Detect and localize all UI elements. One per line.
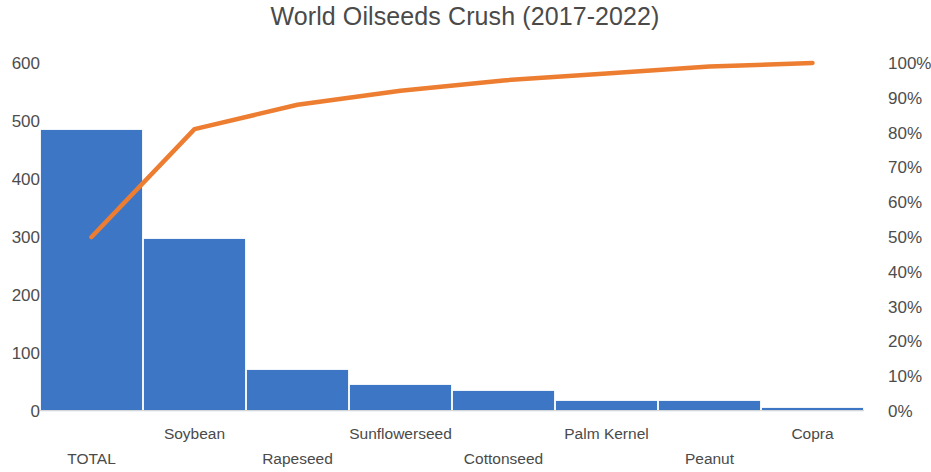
chart-title: World Oilseeds Crush (2017-2022) <box>0 2 930 31</box>
y-axis-left: 6005004003002001000 <box>0 0 40 472</box>
y2-tick-100: 100% <box>888 55 931 72</box>
plot-area <box>40 55 864 415</box>
x-label-sunflowerseed: Sunflowerseed <box>311 426 491 442</box>
y2-tick-60: 60% <box>888 194 922 211</box>
y-tick-100: 100 <box>12 345 40 362</box>
cumulative-line-layer <box>40 55 864 415</box>
y-tick-300: 300 <box>12 229 40 246</box>
y-axis-right-percent: 100%90%80%70%60%50%40%30%20%10%0% <box>872 0 930 472</box>
y2-tick-50: 50% <box>888 229 922 246</box>
y-tick-200: 200 <box>12 287 40 304</box>
y2-tick-80: 80% <box>888 125 922 142</box>
x-label-soybean: Soybean <box>105 426 285 442</box>
x-axis-categories: TOTALSoybeanRapeseedSunflowerseedCottons… <box>0 418 930 472</box>
x-label-peanut: Peanut <box>620 451 800 467</box>
y-tick-500: 500 <box>12 113 40 130</box>
cumulative-line-path <box>92 63 813 237</box>
x-label-rapeseed: Rapeseed <box>208 451 388 467</box>
y2-tick-10: 10% <box>888 368 922 385</box>
y2-tick-90: 90% <box>888 90 922 107</box>
x-label-total: TOTAL <box>2 451 182 467</box>
cumulative-percent-line <box>40 55 864 415</box>
x-label-palm-kernel: Palm Kernel <box>517 426 697 442</box>
y2-tick-20: 20% <box>888 333 922 350</box>
y-tick-600: 600 <box>12 55 40 72</box>
y2-tick-30: 30% <box>888 299 922 316</box>
x-label-cottonseed: Cottonseed <box>414 451 594 467</box>
x-label-copra: Copra <box>723 426 903 442</box>
y-tick-400: 400 <box>12 171 40 188</box>
y2-tick-70: 70% <box>888 159 922 176</box>
y2-tick-40: 40% <box>888 264 922 281</box>
